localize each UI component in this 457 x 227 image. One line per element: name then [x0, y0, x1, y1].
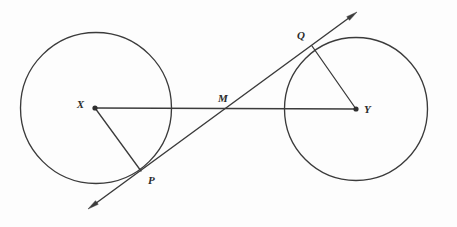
transversal-line-pq — [92, 15, 352, 206]
geometry-diagram-canvas: X Y P Q M — [0, 0, 457, 227]
arrowhead-upper-right-icon — [347, 12, 357, 20]
arrowhead-lower-left-icon — [88, 201, 98, 209]
geometry-figure: X Y P Q M — [0, 0, 457, 227]
label-point-m: M — [217, 92, 229, 104]
label-point-x: X — [76, 98, 85, 110]
label-point-q: Q — [297, 29, 305, 41]
radius-x-to-p — [95, 108, 141, 171]
center-point-x-dot — [92, 105, 97, 110]
radius-y-to-q — [312, 46, 356, 109]
center-point-y-dot — [353, 106, 358, 111]
label-point-y: Y — [364, 103, 372, 115]
label-point-p: P — [148, 174, 155, 186]
